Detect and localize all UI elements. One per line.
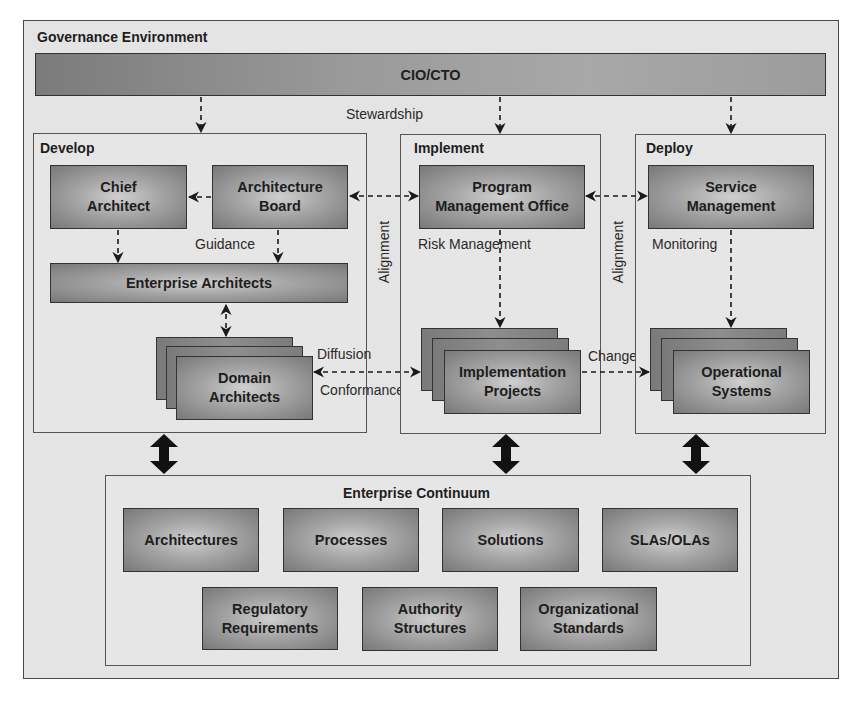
- develop-title: Develop: [40, 140, 94, 156]
- chief-architect-box[interactable]: Chief Architect: [50, 165, 187, 229]
- continuum-slas-olas-box[interactable]: SLAs/OLAs: [602, 508, 738, 572]
- governance-environment-title: Governance Environment: [37, 29, 207, 45]
- regulatory-line1: Regulatory: [222, 600, 319, 619]
- pmo-line1: Program: [435, 178, 569, 197]
- service-line2: Management: [687, 197, 776, 216]
- authority-line2: Structures: [394, 619, 467, 638]
- alignment-label-left: Alignment: [376, 215, 392, 289]
- continuum-solutions-box[interactable]: Solutions: [442, 508, 579, 572]
- conformance-label: Conformance: [320, 382, 404, 398]
- guidance-label: Guidance: [195, 236, 255, 252]
- enterprise-architects-label: Enterprise Architects: [126, 274, 272, 293]
- architecture-board-line2: Board: [237, 197, 322, 216]
- monitoring-label: Monitoring: [652, 236, 717, 252]
- domain-architects-line2: Architects: [209, 388, 280, 407]
- diffusion-label: Diffusion: [317, 346, 371, 362]
- continuum-authority-structures-box[interactable]: Authority Structures: [362, 587, 498, 651]
- operational-systems-box[interactable]: Operational Systems: [673, 350, 810, 414]
- organizational-line1: Organizational: [538, 600, 639, 619]
- domain-architects-line1: Domain: [209, 369, 280, 388]
- deploy-title: Deploy: [646, 140, 693, 156]
- cio-cto-bar[interactable]: CIO/CTO: [35, 53, 826, 96]
- service-management-box[interactable]: Service Management: [648, 165, 814, 229]
- stewardship-label: Stewardship: [346, 106, 423, 122]
- chief-architect-line2: Architect: [87, 197, 150, 216]
- implementation-projects-box[interactable]: Implementation Projects: [444, 350, 581, 414]
- program-management-office-box[interactable]: Program Management Office: [419, 165, 585, 229]
- authority-line1: Authority: [394, 600, 467, 619]
- enterprise-architects-box[interactable]: Enterprise Architects: [50, 263, 348, 303]
- architecture-board-box[interactable]: Architecture Board: [212, 165, 348, 229]
- continuum-organizational-standards-box[interactable]: Organizational Standards: [520, 587, 657, 651]
- systems-line2: Systems: [701, 382, 782, 401]
- projects-line2: Projects: [459, 382, 566, 401]
- risk-management-label: Risk Management: [418, 236, 531, 252]
- cio-cto-label: CIO/CTO: [400, 67, 460, 83]
- continuum-regulatory-requirements-box[interactable]: Regulatory Requirements: [202, 587, 338, 650]
- pmo-line2: Management Office: [435, 197, 569, 216]
- architectures-label: Architectures: [144, 531, 237, 550]
- enterprise-continuum-title: Enterprise Continuum: [343, 485, 490, 501]
- change-label: Change: [588, 348, 637, 364]
- implement-title: Implement: [414, 140, 484, 156]
- systems-line1: Operational: [701, 363, 782, 382]
- alignment-label-right: Alignment: [610, 215, 626, 289]
- continuum-processes-box[interactable]: Processes: [283, 508, 419, 572]
- slas-olas-label: SLAs/OLAs: [630, 531, 710, 550]
- domain-architects-box[interactable]: Domain Architects: [176, 356, 313, 420]
- service-line1: Service: [687, 178, 776, 197]
- chief-architect-line1: Chief: [87, 178, 150, 197]
- projects-line1: Implementation: [459, 363, 566, 382]
- processes-label: Processes: [315, 531, 388, 550]
- architecture-board-line1: Architecture: [237, 178, 322, 197]
- continuum-architectures-box[interactable]: Architectures: [123, 508, 259, 572]
- regulatory-line2: Requirements: [222, 619, 319, 638]
- solutions-label: Solutions: [477, 531, 543, 550]
- organizational-line2: Standards: [538, 619, 639, 638]
